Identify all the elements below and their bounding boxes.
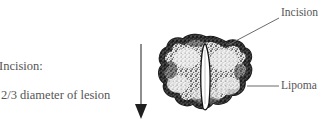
- incision-slit-icon: [201, 44, 210, 110]
- down-arrow-icon: [135, 44, 147, 119]
- lipoma-incision-figure: Incision: 2/3 diameter of lesion Incisio…: [0, 0, 327, 134]
- leader-line-incision: [228, 18, 279, 45]
- figure-artwork: [0, 0, 327, 134]
